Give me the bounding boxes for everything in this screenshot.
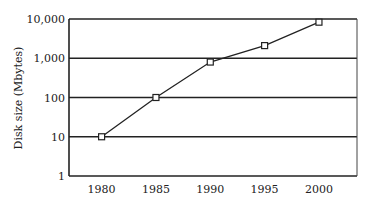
x-tick-label: 2000	[305, 183, 333, 196]
gridlines	[69, 19, 357, 176]
y-tick-label: 1	[58, 170, 65, 183]
data-series	[99, 19, 322, 140]
data-point-marker	[153, 95, 159, 101]
series-line	[102, 22, 319, 137]
y-axis-label: Disk size (Mbytes)	[12, 47, 25, 150]
data-point-marker	[207, 59, 213, 65]
data-point-marker	[99, 134, 105, 140]
data-point-marker	[316, 19, 322, 25]
x-axis-ticks: 19801985199019952000	[88, 183, 333, 196]
x-tick-label: 1980	[88, 183, 116, 196]
x-tick-label: 1985	[142, 183, 170, 196]
y-tick-label: 10	[51, 131, 65, 144]
y-tick-label: 100	[44, 92, 65, 105]
y-tick-label: 1,000	[34, 52, 66, 65]
x-tick-label: 1990	[196, 183, 224, 196]
y-tick-label: 10,000	[27, 13, 66, 26]
x-tick-label: 1995	[251, 183, 279, 196]
disk-size-chart: 1101001,00010,000 19801985199019952000 D…	[0, 0, 372, 204]
data-point-marker	[262, 43, 268, 49]
y-axis-ticks: 1101001,00010,000	[27, 13, 66, 183]
